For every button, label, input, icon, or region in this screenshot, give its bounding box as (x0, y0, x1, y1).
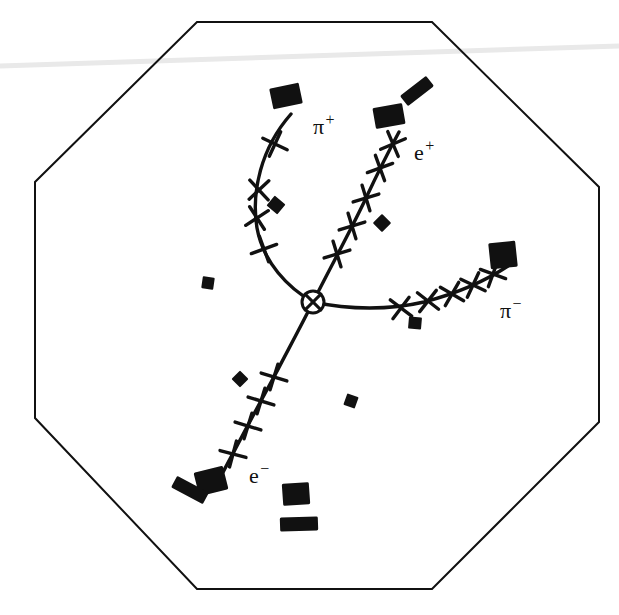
calorimeter-block-pi-plus-end (269, 83, 303, 110)
track-label-e-minus-base: e (249, 463, 259, 488)
track-label-pi-plus-base: π (313, 114, 324, 139)
track-label-pi-plus-superscript: + (326, 111, 335, 128)
hit-cross-stroke (251, 236, 276, 261)
interaction-vertex-layer (302, 291, 324, 313)
calorimeter-bar-upper-right (400, 76, 434, 107)
e-minus-track (220, 302, 313, 476)
track-label-pi-minus: π− (500, 295, 522, 323)
pi-minus-track (313, 261, 508, 318)
track-label-pi-plus: π+ (313, 111, 335, 139)
particle-tracks-layer (220, 114, 508, 476)
pi-plus-track-hit-marker (251, 236, 276, 261)
hit-cross-stroke (381, 132, 406, 157)
pi-minus-track-hit-marker (417, 290, 438, 311)
isolated-hit-bottom-mid (343, 393, 358, 408)
calorimeter-block-e-plus-end (372, 103, 405, 129)
track-label-pi-minus-base: π (500, 298, 511, 323)
e-plus-track-hit-marker (353, 185, 379, 211)
hit-cross-stroke (324, 241, 350, 267)
hit-cross-stroke (220, 441, 246, 467)
e-minus-track-hit-marker (248, 388, 274, 414)
hit-cross-stroke (367, 155, 392, 180)
scan-artifact-layer (0, 46, 619, 66)
track-label-pi-minus-superscript: − (513, 295, 522, 312)
hit-cross-stroke (353, 185, 379, 211)
e-plus-track-line (313, 132, 399, 302)
hit-cross-stroke (248, 388, 274, 414)
track-label-e-plus-superscript: + (425, 137, 434, 154)
track-label-e-minus-superscript: − (260, 460, 269, 477)
isolated-hit-e-minus-upper (232, 371, 249, 388)
e-plus-track-hit-marker (339, 213, 365, 239)
e-plus-track (313, 132, 405, 302)
scan-streak (0, 46, 619, 66)
e-minus-track-hit-marker (235, 413, 261, 439)
e-minus-track-hit-marker (261, 364, 287, 390)
isolated-hit-e-plus-right (373, 214, 391, 232)
hit-cross-stroke (440, 282, 463, 305)
pi-plus-track-line (255, 114, 313, 302)
hit-cross-stroke (339, 213, 365, 239)
track-label-e-minus: e− (249, 460, 269, 488)
track-label-e-plus: e+ (414, 137, 434, 165)
e-minus-track-hit-marker (220, 441, 246, 467)
isolated-hit-pi-minus-below (408, 316, 422, 329)
event-display-canvas: π+e+π−e− (0, 0, 619, 615)
e-plus-track-hit-marker (324, 241, 350, 267)
pi-minus-track-hit-marker (461, 273, 485, 297)
calorimeter-bar-bottom-center (280, 516, 318, 531)
e-plus-track-hit-marker (381, 132, 406, 157)
hit-cross-stroke (261, 364, 287, 390)
detector-event-display-figure: π+e+π−e− (0, 0, 619, 615)
hit-cross-stroke (461, 273, 485, 297)
calorimeter-block-pi-minus-end (488, 241, 518, 270)
track-label-e-plus-base: e (414, 140, 424, 165)
hit-cross-stroke (235, 413, 261, 439)
calorimeter-blocks-layer (171, 76, 518, 532)
pi-minus-track-hit-marker (440, 282, 463, 305)
isolated-hit-left-mid (201, 276, 215, 290)
calorimeter-block-bottom-center (282, 482, 310, 506)
e-plus-track-hit-marker (367, 155, 392, 180)
